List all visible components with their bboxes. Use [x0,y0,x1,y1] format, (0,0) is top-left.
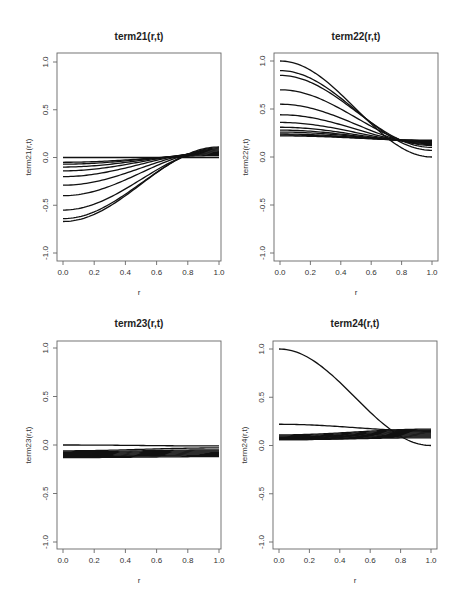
y-tick-label: 0.0 [257,439,266,451]
y-tick-label: 0.5 [41,390,50,402]
panel-term21: term21(r,t) r term21(r,t) 0.00.20.40.60.… [24,31,225,297]
x-tick-label: 0.4 [120,268,132,277]
x-tick-label: 0.0 [57,556,69,565]
y-tick-label: -0.5 [41,198,50,212]
y-tick-label: 0.0 [258,151,267,163]
chart-figure: term21(r,t) r term21(r,t) 0.00.20.40.60.… [0,0,462,605]
y-tick-label: 1.0 [41,342,50,354]
y-tick-label: 1.0 [257,343,266,355]
x-tick-label: 0.2 [89,556,101,565]
y-tick-label: 1.0 [258,55,267,67]
x-tick-label: 0.6 [151,268,163,277]
panel-title: term21(r,t) [115,31,164,42]
y-tick-label: -1.0 [258,246,267,260]
series-line [63,147,219,221]
plot-frame [273,341,437,549]
x-tick-label: 0.0 [273,556,285,565]
x-tick-label: 0.0 [274,268,286,277]
x-axis-label: r [138,288,141,297]
x-axis-label: r [354,576,357,585]
x-tick-label: 0.6 [151,556,163,565]
y-axis-label: term22(r,t) [241,138,250,175]
x-tick-label: 0.2 [89,268,101,277]
y-tick-label: 1.0 [41,56,50,68]
x-tick-label: 0.8 [182,556,194,565]
series-line [63,445,219,446]
panel-term23: term23(r,t) r term23(r,t) 0.00.20.40.60.… [24,318,225,585]
panel-title: term22(r,t) [332,31,381,42]
x-tick-label: 0.8 [396,268,408,277]
y-axis-label: term23(r,t) [24,426,33,463]
x-tick-label: 1.0 [425,556,437,565]
x-tick-label: 0.0 [57,268,69,277]
x-tick-label: 1.0 [426,268,438,277]
panel-title: term24(r,t) [331,318,380,329]
y-tick-label: -1.0 [257,535,266,549]
x-tick-label: 0.6 [365,556,377,565]
x-tick-label: 1.0 [213,556,225,565]
y-tick-label: -1.0 [41,246,50,260]
panel-term22: term22(r,t) r term22(r,t) 0.00.20.40.60.… [241,31,438,297]
x-axis-label: r [138,576,141,585]
y-axis-label: term24(r,t) [240,426,249,463]
y-tick-label: 0.5 [41,104,50,116]
panel-title: term23(r,t) [115,318,164,329]
series-line [280,115,432,144]
y-tick-label: 0.0 [41,439,50,451]
y-tick-label: 0.5 [258,103,267,115]
x-tick-label: 0.2 [304,556,316,565]
x-tick-label: 0.2 [305,268,317,277]
y-tick-label: -1.0 [41,535,50,549]
y-tick-label: 0.5 [257,391,266,403]
x-tick-label: 0.4 [120,556,132,565]
x-tick-label: 0.4 [335,268,347,277]
y-tick-label: -0.5 [258,198,267,212]
y-tick-label: -0.5 [257,486,266,500]
y-tick-label: -0.5 [41,486,50,500]
plot-frame [274,53,438,261]
x-tick-label: 0.8 [182,268,194,277]
y-axis-label: term21(r,t) [24,138,33,175]
x-axis-label: r [355,288,358,297]
x-tick-label: 1.0 [213,268,225,277]
panel-term24: term24(r,t) r term24(r,t) 0.00.20.40.60.… [240,318,437,585]
y-tick-label: 0.0 [41,151,50,163]
x-tick-label: 0.8 [395,556,407,565]
x-tick-label: 0.4 [334,556,346,565]
x-tick-label: 0.6 [366,268,378,277]
series-line [63,150,219,196]
